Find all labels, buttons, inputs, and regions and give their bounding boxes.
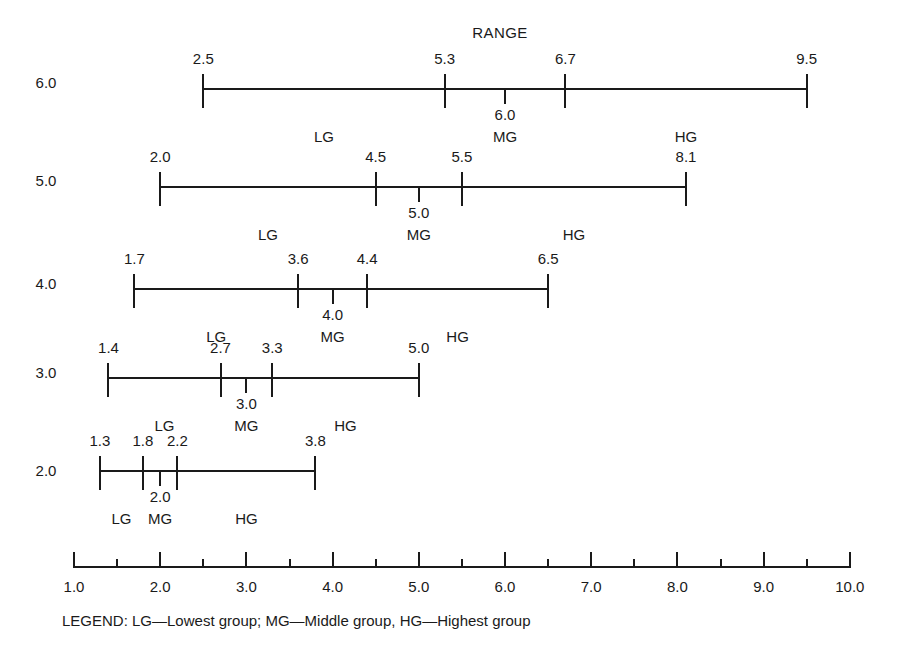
row-label: 5.0 (36, 172, 57, 189)
range-tick-label: 6.7 (555, 50, 576, 67)
mg-marker-tick (418, 186, 420, 202)
mg-marker-tick (245, 377, 247, 393)
range-tick-label: 1.7 (124, 250, 145, 267)
x-axis-tick-major (332, 552, 334, 568)
x-axis-tick-label: 8.0 (667, 578, 688, 595)
x-axis-tick-major (676, 552, 678, 568)
range-tick-label: 1.4 (98, 339, 119, 356)
mg-marker-label: 5.0 (408, 204, 429, 221)
group-label-hg: HG (334, 417, 357, 434)
group-label-mg: MG (407, 226, 431, 243)
x-axis-tick-label: 4.0 (322, 578, 343, 595)
group-label-lg: LG (314, 128, 334, 145)
range-tick (133, 274, 135, 308)
x-axis-tick-minor (547, 559, 549, 568)
mg-marker-tick (332, 288, 334, 304)
group-label-mg: MG (148, 510, 172, 527)
mg-marker-label: 3.0 (236, 395, 257, 412)
range-tick-label: 3.6 (288, 250, 309, 267)
range-tick (564, 74, 566, 108)
x-axis-tick-minor (202, 559, 204, 568)
range-tick (547, 274, 549, 308)
range-tick (418, 363, 420, 397)
range-tick-label: 4.5 (365, 148, 386, 165)
x-axis-tick-major (418, 552, 420, 568)
range-tick-label: 1.3 (89, 432, 110, 449)
x-axis-tick-major (245, 552, 247, 568)
range-tick-label: 2.5 (193, 50, 214, 67)
row-label: 2.0 (36, 462, 57, 479)
range-tick-label: 3.3 (262, 339, 283, 356)
x-axis-tick-label: 6.0 (495, 578, 516, 595)
range-tick (142, 456, 144, 490)
range-tick (685, 172, 687, 206)
range-tick (461, 172, 463, 206)
x-axis-tick-label: 9.0 (753, 578, 774, 595)
mg-marker-label: 6.0 (495, 106, 516, 123)
group-label-hg: HG (675, 128, 698, 145)
x-axis-tick-label: 3.0 (236, 578, 257, 595)
range-tick-label: 2.7 (210, 339, 231, 356)
range-tick (176, 456, 178, 490)
group-label-hg: HG (563, 226, 586, 243)
row-label: 6.0 (36, 74, 57, 91)
range-tick-label: 9.5 (796, 50, 817, 67)
x-axis-tick-minor (461, 559, 463, 568)
range-tick (366, 274, 368, 308)
range-tick (271, 363, 273, 397)
group-label-mg: MG (493, 128, 517, 145)
x-axis-tick-minor (633, 559, 635, 568)
row-label: 3.0 (36, 364, 57, 381)
range-tick (314, 456, 316, 490)
x-axis-tick-major (763, 552, 765, 568)
range-tick-label: 5.0 (408, 339, 429, 356)
group-label-lg: LG (111, 510, 131, 527)
range-tick-label: 6.5 (538, 250, 559, 267)
x-axis-tick-label: 2.0 (150, 578, 171, 595)
range-line (108, 377, 418, 379)
range-line (160, 186, 686, 188)
x-axis-tick-major (504, 552, 506, 568)
mg-marker-label: 4.0 (322, 306, 343, 323)
x-axis-tick-label: 10.0 (835, 578, 864, 595)
x-axis-tick-major (590, 552, 592, 568)
legend: LEGEND: LG—Lowest group; MG—Middle group… (62, 612, 531, 629)
group-label-mg: MG (321, 328, 345, 345)
range-tick-label: 8.1 (676, 148, 697, 165)
x-axis-tick-minor (375, 559, 377, 568)
range-tick (375, 172, 377, 206)
row-label: 4.0 (36, 275, 57, 292)
mg-marker-tick (159, 470, 161, 486)
range-tick-label: 5.5 (451, 148, 472, 165)
range-line (100, 470, 316, 472)
range-tick (202, 74, 204, 108)
range-tick (297, 274, 299, 308)
chart-title: RANGE (472, 24, 527, 41)
range-tick-label: 5.3 (434, 50, 455, 67)
range-tick-label: 1.8 (133, 432, 154, 449)
group-label-mg: MG (234, 417, 258, 434)
range-chart-figure: RANGE 6.02.55.36.79.56.0LGMGHG5.02.04.55… (0, 0, 900, 656)
range-tick-label: 3.8 (305, 432, 326, 449)
x-axis-tick-major (159, 552, 161, 568)
x-axis-tick-label: 7.0 (581, 578, 602, 595)
range-tick-label: 4.4 (357, 250, 378, 267)
mg-marker-label: 2.0 (150, 488, 171, 505)
x-axis-tick-minor (116, 559, 118, 568)
x-axis-tick-label: 1.0 (64, 578, 85, 595)
x-axis-tick-minor (289, 559, 291, 568)
range-tick-label: 2.2 (167, 432, 188, 449)
range-tick (444, 74, 446, 108)
x-axis-tick-major (73, 552, 75, 568)
group-label-hg: HG (235, 510, 258, 527)
x-axis-tick-major (849, 552, 851, 568)
range-tick (159, 172, 161, 206)
range-tick (806, 74, 808, 108)
x-axis-tick-minor (720, 559, 722, 568)
range-tick (220, 363, 222, 397)
range-tick-label: 2.0 (150, 148, 171, 165)
group-label-lg: LG (258, 226, 278, 243)
group-label-hg: HG (446, 328, 469, 345)
x-axis-tick-label: 5.0 (408, 578, 429, 595)
x-axis-tick-minor (806, 559, 808, 568)
